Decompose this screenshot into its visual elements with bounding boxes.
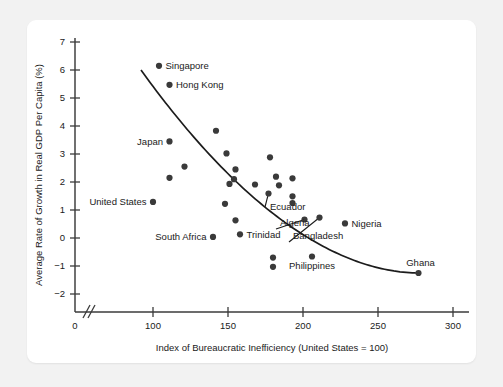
data-point <box>270 264 276 270</box>
x-tick-label: 200 <box>295 320 311 331</box>
point-label-algeria: Algeria <box>280 217 310 228</box>
point-label-japan: Japan <box>137 136 163 147</box>
x-tick-group: 0100150200250300 <box>72 307 461 331</box>
data-point <box>166 138 172 144</box>
point-label-ghana: Ghana <box>406 257 435 268</box>
scatter-plot: −2−101234567 0100150200250300 SingaporeH… <box>27 20 476 363</box>
y-tick-label: 2 <box>60 176 65 187</box>
y-tick-label: −2 <box>54 288 65 299</box>
data-point <box>213 128 219 134</box>
x-tick-label: 0 <box>72 320 77 331</box>
y-tick-label: 3 <box>60 148 65 159</box>
y-tick-label: 7 <box>60 36 65 47</box>
data-point <box>166 175 172 181</box>
data-point <box>342 220 348 226</box>
x-axis-title: Index of Bureaucratic Inefficiency (Unit… <box>156 342 388 353</box>
trend-curve-group <box>141 70 419 273</box>
data-point <box>222 201 228 207</box>
data-point <box>231 176 237 182</box>
point-label-south-africa: South Africa <box>155 231 207 242</box>
data-point-group <box>150 63 422 276</box>
point-label-hong-kong: Hong Kong <box>176 79 224 90</box>
point-label-trinidad: Trinidad <box>247 229 281 240</box>
axes <box>75 38 469 318</box>
y-tick-label: 6 <box>60 64 65 75</box>
x-tick-label: 100 <box>145 320 161 331</box>
data-point <box>150 199 156 205</box>
y-tick-label: 0 <box>60 232 65 243</box>
point-label-nigeria: Nigeria <box>352 218 383 229</box>
y-tick-label: 4 <box>60 120 65 131</box>
data-point <box>223 150 229 156</box>
y-tick-label: 1 <box>60 204 65 215</box>
y-axis-title: Average Rate of Growth in Real GDP Per C… <box>33 64 44 286</box>
data-point <box>265 190 271 196</box>
data-point <box>232 166 238 172</box>
data-point <box>415 270 421 276</box>
y-tick-label: −1 <box>54 260 65 271</box>
data-point <box>273 174 279 180</box>
data-point <box>210 234 216 240</box>
point-label-group: SingaporeHong KongJapanUnited StatesSout… <box>89 60 435 271</box>
point-label-united-states: United States <box>89 196 146 207</box>
y-tick-label: 5 <box>60 92 65 103</box>
data-point <box>181 164 187 170</box>
trend-curve <box>141 70 419 273</box>
data-point <box>252 181 258 187</box>
data-point <box>226 181 232 187</box>
point-label-philippines: Philippines <box>289 260 335 271</box>
data-point <box>270 255 276 261</box>
point-label-ecuador: Ecuador <box>270 201 305 212</box>
x-tick-label: 250 <box>370 320 386 331</box>
data-point <box>276 182 282 188</box>
data-point <box>289 193 295 199</box>
point-label-bangladesh: Bangladesh <box>293 230 343 241</box>
data-point <box>267 154 273 160</box>
data-point <box>316 214 322 220</box>
x-tick-label: 150 <box>220 320 236 331</box>
data-point <box>289 175 295 181</box>
point-label-singapore: Singapore <box>166 60 209 71</box>
data-point <box>166 82 172 88</box>
data-point <box>237 231 243 237</box>
y-tick-group: −2−101234567 <box>54 36 80 299</box>
data-point <box>156 63 162 69</box>
data-point <box>309 253 315 259</box>
x-tick-label: 300 <box>445 320 461 331</box>
figure-panel: −2−101234567 0100150200250300 SingaporeH… <box>27 20 476 363</box>
data-point <box>232 217 238 223</box>
